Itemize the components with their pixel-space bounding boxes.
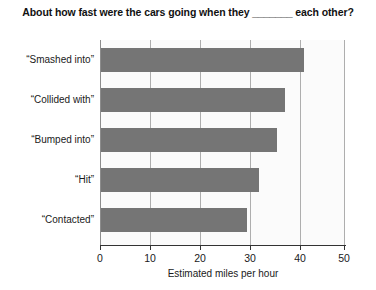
bar-chart-figure: About how fast were the cars going when …: [0, 0, 376, 290]
x-tick-mark-20: [200, 245, 201, 250]
y-tick-label-bumped-into: “Bumped into”: [0, 134, 94, 146]
x-tick-label-30: 30: [230, 252, 270, 264]
x-tick-mark-10: [150, 245, 151, 250]
x-tick-mark-30: [250, 245, 251, 250]
x-tick-label-40: 40: [280, 252, 320, 264]
bar-smashed-into[interactable]: [100, 48, 304, 72]
x-tick-mark-50: [344, 245, 345, 250]
bar-bumped-into[interactable]: [100, 128, 277, 152]
x-tick-mark-0: [100, 245, 101, 250]
bar-collided-with[interactable]: [100, 88, 285, 112]
y-tick-label-contacted: “Contacted”: [0, 214, 94, 226]
plot-area: [100, 40, 345, 245]
x-tick-mark-40: [300, 245, 301, 250]
y-tick-label-smashed-into: “Smashed into”: [0, 54, 94, 66]
chart-title: About how fast were the cars going when …: [0, 6, 376, 18]
x-tick-label-50: 50: [324, 252, 364, 264]
x-axis-line: [100, 245, 346, 246]
x-tick-label-0: 0: [80, 252, 120, 264]
gridline-50: [344, 40, 345, 245]
x-axis-title: Estimated miles per hour: [100, 268, 346, 279]
y-axis-line: [100, 40, 101, 246]
bar-contacted[interactable]: [100, 208, 247, 232]
y-tick-label-hit: “Hit”: [0, 174, 94, 186]
x-tick-label-20: 20: [180, 252, 220, 264]
y-tick-label-collided-with: “Collided with”: [0, 94, 94, 106]
bar-hit[interactable]: [100, 168, 259, 192]
x-tick-label-10: 10: [130, 252, 170, 264]
